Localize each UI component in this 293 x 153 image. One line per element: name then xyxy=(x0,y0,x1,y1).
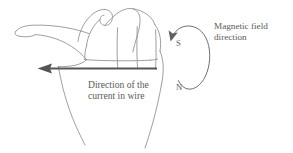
palm-left-contour xyxy=(58,60,87,67)
middle-finger-crease xyxy=(117,28,118,68)
ring-finger-top xyxy=(133,9,155,25)
physics-diagram-right-hand-rule: Magnetic field direction Direction of th… xyxy=(0,0,293,153)
south-pole-label: S xyxy=(176,38,181,48)
wrist-left-line xyxy=(59,67,86,145)
field-loop-path xyxy=(173,26,210,89)
current-direction-label-line2: current in wire xyxy=(88,90,149,101)
index-knuckle-line xyxy=(85,46,87,60)
thumbnail-detail xyxy=(15,31,35,37)
ring-finger-crease xyxy=(137,27,138,69)
pinky-crease xyxy=(155,30,156,69)
index-finger-inner xyxy=(87,19,100,45)
current-direction-label: Direction of the current in wire xyxy=(88,79,149,102)
magnetic-field-label-line1: Magnetic field xyxy=(214,21,268,32)
north-pole-label: N xyxy=(176,82,182,92)
current-arrow-pointing-left xyxy=(38,63,158,73)
pinky-base-edge xyxy=(150,59,158,60)
magnetic-field-loop-clockwise xyxy=(169,26,210,89)
palm-right-contour xyxy=(160,51,163,84)
index-finger-tip-curl xyxy=(100,9,113,25)
index-finger-outer xyxy=(78,9,105,41)
thumb-upper-edge xyxy=(16,25,89,33)
current-arrow-head xyxy=(38,63,53,73)
current-direction-label-line1: Direction of the xyxy=(88,79,149,90)
magnetic-field-label-line2: direction xyxy=(214,32,268,43)
middle-finger-right xyxy=(133,9,140,52)
magnetic-field-direction-label: Magnetic field direction xyxy=(214,21,268,43)
